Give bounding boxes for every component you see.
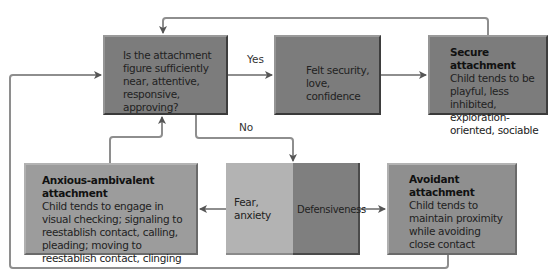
no-label: No — [239, 121, 253, 133]
fear-anxiety-box: Fear, anxiety — [226, 163, 293, 255]
secure-loop-arrow — [163, 18, 488, 35]
anxious-loop-arrow — [110, 117, 162, 163]
secure-attachment-text: Child tends to be playful, less inhibite… — [450, 72, 542, 137]
question-box: Is the attachment figure sufficiently ne… — [103, 35, 228, 115]
anxious-ambivalent-text: Child tends to engage in visual checking… — [42, 200, 190, 265]
fear-anxiety-text: Fear, anxiety — [234, 196, 274, 222]
felt-security-text: Felt security, love, confidence — [306, 64, 373, 103]
anxious-ambivalent-box: Anxious-ambivalent attachment Child tend… — [24, 163, 198, 255]
avoidant-attachment-text: Child tends to maintain proximity while … — [409, 199, 504, 251]
avoidant-attachment-box: Avoidant attachment Child tends to maint… — [387, 163, 517, 255]
yes-label: Yes — [247, 53, 264, 65]
secure-attachment-box: Secure attachment Child tends to be play… — [428, 35, 548, 115]
defensiveness-box: Defensiveness — [293, 163, 360, 255]
felt-security-box: Felt security, love, confidence — [274, 35, 381, 115]
secure-attachment-title: Secure attachment — [450, 46, 542, 72]
defensiveness-text: Defensiveness — [297, 203, 356, 216]
anxious-ambivalent-title: Anxious-ambivalent attachment — [42, 174, 190, 200]
avoidant-attachment-title: Avoidant attachment — [409, 173, 479, 199]
question-text: Is the attachment figure sufficiently ne… — [123, 49, 218, 114]
